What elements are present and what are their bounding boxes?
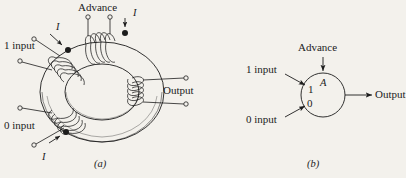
- advance-terminal-right[interactable]: [108, 15, 112, 19]
- output-terminal-upper[interactable]: [184, 76, 188, 80]
- label-core-name-b: A: [320, 78, 326, 89]
- label-advance-a: Advance: [78, 2, 117, 13]
- zero-input-terminal-lower[interactable]: [32, 143, 36, 147]
- label-one-input-b: 1 input: [246, 64, 277, 75]
- label-state-zero-b: 0: [307, 98, 313, 109]
- label-output-b: Output: [375, 89, 406, 100]
- one-input-arrow-b: [285, 74, 305, 85]
- label-current-zero-a: I: [42, 152, 46, 163]
- zero-input-terminal-upper[interactable]: [18, 106, 22, 110]
- label-output-a: Output: [163, 85, 194, 96]
- label-current-one-a: I: [56, 22, 60, 33]
- zero-input-arrow-b: [285, 106, 305, 117]
- advance-current-arrow: [122, 13, 131, 36]
- advance-terminal-left[interactable]: [86, 15, 90, 19]
- label-zero-input-b: 0 input: [246, 114, 277, 125]
- advance-winding: [85, 15, 115, 64]
- one-input-current-arrow: [50, 34, 71, 53]
- one-input-terminal-lower[interactable]: [18, 59, 22, 63]
- caption-a: (a): [94, 158, 106, 169]
- output-terminal-lower[interactable]: [184, 102, 188, 106]
- core-symbol: [285, 57, 372, 117]
- label-zero-input-a: 0 input: [4, 120, 35, 131]
- label-state-one-b: 1: [308, 84, 314, 95]
- caption-b: (b): [307, 158, 319, 169]
- label-current-advance-a: I: [133, 8, 137, 19]
- label-one-input-a: 1 input: [4, 40, 35, 51]
- label-advance-b: Advance: [298, 42, 337, 53]
